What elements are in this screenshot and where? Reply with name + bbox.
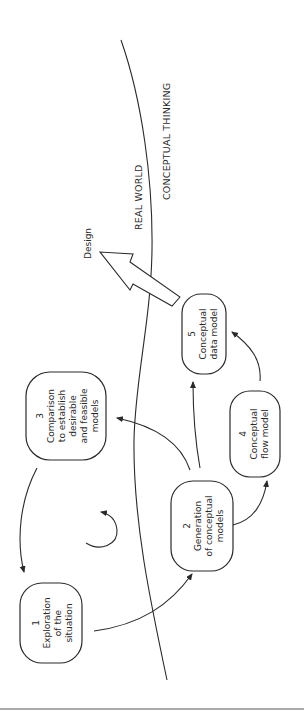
- node-5-number: 5: [187, 331, 197, 337]
- design-label: Design: [83, 228, 93, 259]
- svg-text:desirable: desirable: [68, 395, 78, 437]
- svg-text:flow model: flow model: [260, 409, 270, 458]
- svg-text:situation: situation: [64, 603, 74, 642]
- soft-systems-diagram: REAL WORLD CONCEPTUAL THINKING Design 1 …: [0, 0, 304, 719]
- node-comparison: 3 Comparison to establish desirable and …: [26, 372, 106, 460]
- svg-text:Exploration: Exploration: [42, 597, 52, 648]
- node-flow-model: 4 Conceptual flow model: [230, 391, 280, 477]
- svg-text:Generation: Generation: [193, 501, 203, 551]
- svg-text:Conceptual: Conceptual: [198, 309, 208, 360]
- edge-2-to-5: [193, 382, 200, 468]
- svg-text:models: models: [215, 509, 225, 542]
- svg-text:models: models: [90, 399, 100, 432]
- svg-text:to establish: to establish: [57, 390, 67, 442]
- edge-2-to-4: [233, 481, 267, 525]
- svg-text:Comparison: Comparison: [46, 389, 56, 443]
- svg-text:of the: of the: [53, 609, 63, 636]
- node-generation: 2 Generation of conceptual models: [171, 481, 233, 571]
- svg-text:and feasible: and feasible: [79, 388, 89, 443]
- svg-text:of conceptual: of conceptual: [204, 495, 214, 556]
- region-label-real-world: REAL WORLD: [133, 165, 144, 231]
- edge-4-to-5: [232, 332, 260, 381]
- node-1-number: 1: [31, 620, 41, 626]
- edge-1-to-2: [94, 574, 192, 631]
- svg-text:Conceptual: Conceptual: [249, 409, 259, 460]
- edge-3-to-1: [20, 468, 37, 572]
- node-exploration: 1 Exploration of the situation: [20, 583, 82, 663]
- svg-text:data model: data model: [209, 308, 219, 359]
- node-2-number: 2: [182, 523, 192, 529]
- region-label-conceptual-thinking: CONCEPTUAL THINKING: [161, 83, 172, 200]
- node-3-number: 3: [35, 413, 45, 419]
- node-data-model: 5 Conceptual data model: [182, 294, 226, 374]
- clockwise-cycle-icon: [86, 512, 117, 547]
- edge-2-to-3: [117, 418, 190, 470]
- node-4-number: 4: [238, 431, 248, 437]
- design-arrow-icon: [100, 252, 180, 306]
